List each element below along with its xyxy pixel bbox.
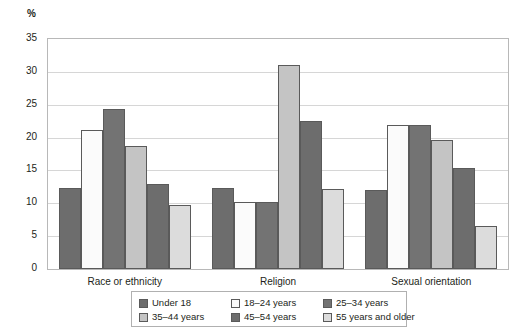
legend-swatch-icon <box>231 313 240 322</box>
legend: Under 1818–24 years25–34 years35–44 year… <box>131 291 407 327</box>
legend-item[interactable]: 18–24 years <box>231 298 323 308</box>
bar[interactable] <box>365 190 387 269</box>
bar-group <box>59 39 191 269</box>
y-axis: 05101520253035 <box>0 38 45 270</box>
y-tick-label: 0 <box>31 263 37 273</box>
bar[interactable] <box>103 109 125 269</box>
legend-swatch-icon <box>323 313 332 322</box>
y-axis-unit-label: % <box>27 8 36 19</box>
legend-label: 25–34 years <box>336 298 388 308</box>
bar[interactable] <box>256 202 278 269</box>
bar[interactable] <box>169 205 191 269</box>
bar[interactable] <box>212 188 234 269</box>
y-tick-label: 35 <box>26 33 37 43</box>
legend-swatch-icon <box>231 299 240 308</box>
bar[interactable] <box>59 188 81 269</box>
bar[interactable] <box>409 125 431 269</box>
legend-item[interactable]: 25–34 years <box>323 298 415 308</box>
bar[interactable] <box>125 146 147 269</box>
y-tick-label: 15 <box>26 164 37 174</box>
bar[interactable] <box>475 226 497 269</box>
legend-item[interactable]: Under 18 <box>139 298 231 308</box>
bar[interactable] <box>147 184 169 269</box>
legend-swatch-icon <box>139 313 148 322</box>
bar[interactable] <box>234 202 256 269</box>
bar[interactable] <box>387 125 409 269</box>
legend-label: 35–44 years <box>152 312 204 322</box>
legend-grid: Under 1818–24 years25–34 years35–44 year… <box>139 296 400 324</box>
bar[interactable] <box>453 168 475 269</box>
y-tick-label: 20 <box>26 132 37 142</box>
bar-chart: % 05101520253035 Race or ethnicityReligi… <box>0 0 522 336</box>
bar[interactable] <box>431 140 453 269</box>
bar-groups-layer <box>48 39 508 269</box>
y-tick-label: 10 <box>26 197 37 207</box>
y-tick-label: 5 <box>31 230 37 240</box>
legend-item[interactable]: 55 years and older <box>323 312 415 322</box>
legend-label: 55 years and older <box>336 312 415 322</box>
bar[interactable] <box>278 65 300 269</box>
legend-label: 45–54 years <box>244 312 296 322</box>
category-label: Sexual orientation <box>391 276 471 287</box>
bar[interactable] <box>322 189 344 269</box>
legend-item[interactable]: 45–54 years <box>231 312 323 322</box>
legend-swatch-icon <box>139 299 148 308</box>
y-tick-label: 30 <box>26 66 37 76</box>
legend-label: Under 18 <box>152 298 191 308</box>
legend-item[interactable]: 35–44 years <box>139 312 231 322</box>
category-label: Race or ethnicity <box>87 276 161 287</box>
legend-label: 18–24 years <box>244 298 296 308</box>
bar[interactable] <box>81 130 103 269</box>
bar-group <box>212 39 344 269</box>
category-label: Religion <box>260 276 296 287</box>
bar-group <box>365 39 497 269</box>
bar[interactable] <box>300 121 322 269</box>
y-tick-label: 25 <box>26 99 37 109</box>
legend-swatch-icon <box>323 299 332 308</box>
